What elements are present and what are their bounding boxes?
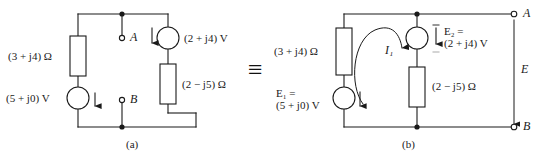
panel-a-top-node-dot [119, 11, 124, 16]
panel-b-source-e1-symbol [333, 87, 355, 109]
panel-b-series-impedance-label: (3 + j4) Ω [274, 45, 318, 58]
equivalence-symbol: ≡ [248, 57, 263, 83]
panel-b-source-e2-symbol [406, 27, 428, 49]
panel-b-top-node-dot [414, 11, 419, 16]
panel-a-bottom-node-dot [119, 124, 124, 129]
panel-b-source-e2-name: E₂ = [444, 25, 464, 37]
panel-a-series-impedance-symbol [70, 36, 86, 76]
panel-a-source-left-label: (5 + j0) V [6, 92, 50, 105]
panel-b-output-voltage-label: E [521, 63, 528, 76]
panel-a-caption: (a) [126, 138, 138, 151]
panel-a-shunt-impedance-symbol [160, 64, 176, 104]
panel-b-terminal-b-dot [511, 124, 517, 130]
panel-b-mesh-current-label: I₁ [385, 44, 393, 57]
panel-b-wires [344, 14, 514, 127]
panel-b-series-impedance-symbol [336, 28, 352, 75]
panel-b-terminal-a-dot [511, 11, 517, 17]
panel-a-terminal-b-dot [119, 97, 124, 102]
panel-b-shunt-impedance-symbol [409, 67, 425, 107]
panel-b-terminal-b-label: B [523, 120, 530, 133]
panel-b-source-e1-value: (5 + j0) V [276, 99, 320, 111]
panel-a-source-right-symbol [157, 27, 179, 49]
panel-a-source-right-label: (2 + j4) V [184, 32, 228, 45]
panel-b-mesh-current-loop [355, 28, 402, 104]
panel-b-source-e2-value: (2 + j4) V [444, 37, 488, 49]
panel-b-source-e1-name: E₁ = [276, 87, 296, 99]
panel-a-terminal-a-label: A [130, 31, 137, 44]
panel-b-caption: (b) [402, 138, 415, 151]
panel-b-bottom-node-dot [414, 124, 419, 129]
panel-b-shunt-impedance-label: (2 − j5) Ω [432, 80, 476, 93]
panel-a-terminal-a-dot [119, 35, 124, 40]
panel-a-source-left-symbol [67, 87, 89, 109]
circuit-figure: (3 + j4) Ω (5 + j0) V (2 + j4) V (2 − j5… [0, 0, 547, 160]
panel-a-shunt-impedance-label: (2 − j5) Ω [182, 78, 226, 91]
panel-b-terminal-a-label: A [523, 7, 530, 20]
panel-a-series-impedance-label: (3 + j4) Ω [8, 50, 52, 63]
panel-a-terminal-b-label: B [130, 93, 137, 106]
